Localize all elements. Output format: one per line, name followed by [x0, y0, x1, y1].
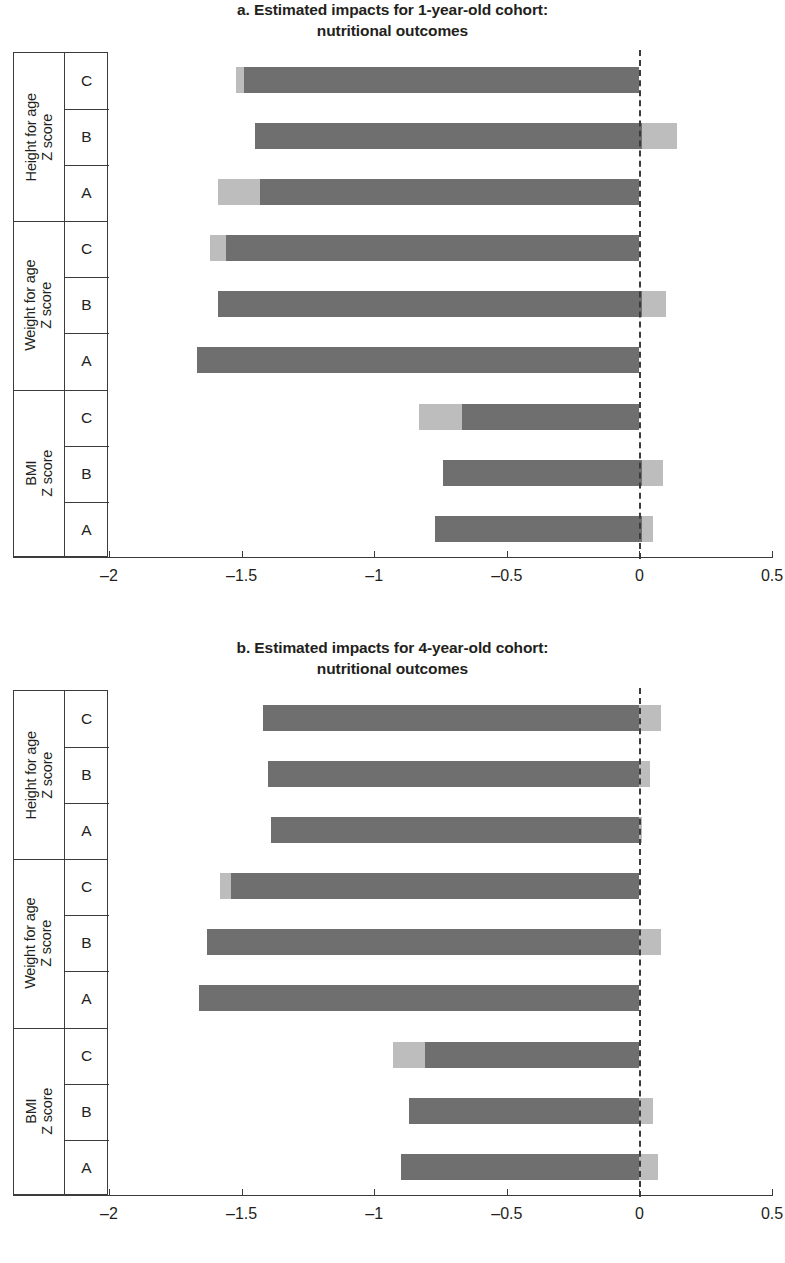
bar-segment-dark	[425, 1042, 640, 1068]
bar-segment-dark	[218, 291, 642, 317]
bar-segment-dark	[271, 817, 640, 843]
group-label-line2: Z score	[39, 260, 55, 351]
bar-c	[419, 404, 639, 430]
bar-segment-light-right	[642, 460, 663, 486]
bar-row	[108, 108, 785, 164]
bar-segment-light-left	[210, 235, 226, 261]
zero-reference-line	[639, 50, 641, 559]
bar-a	[197, 347, 640, 373]
bar-segment-light-right	[642, 516, 653, 542]
bar-segment-dark	[197, 347, 640, 373]
bar-segment-light-right	[639, 1154, 658, 1180]
x-axis-tick	[639, 1189, 640, 1196]
group-label-line2: Z score	[39, 450, 55, 497]
bar-segment-light-left	[236, 67, 244, 93]
x-axis-tick-label: 0	[635, 1205, 644, 1223]
panel-a-title-line2: nutritional outcomes	[90, 21, 695, 42]
bar-segment-light-left	[218, 179, 260, 205]
x-axis-b: –2–1.5–1–0.500.5	[13, 1195, 772, 1196]
bar-a	[271, 817, 642, 843]
sub-category-label-b: B	[64, 747, 109, 803]
bar-segment-dark	[226, 235, 640, 261]
bar-segment-dark	[263, 705, 640, 731]
x-axis-tick-label: –1.5	[226, 1205, 257, 1223]
bars-container-b	[108, 690, 785, 1195]
bar-segment-dark	[260, 179, 639, 205]
sub-category-label-b: B	[64, 446, 109, 502]
group-label-line1: Height for age	[23, 93, 39, 181]
group-label-weight-for-age: Weight for ageZ score	[14, 859, 64, 1027]
group-label-line1: BMI	[23, 450, 39, 497]
bar-b	[268, 761, 650, 787]
bar-c	[393, 1042, 640, 1068]
bar-segment-dark	[268, 761, 639, 787]
bar-segment-dark	[244, 67, 639, 93]
sub-category-label-a: A	[64, 333, 109, 389]
x-axis-tick-label: –1	[365, 567, 383, 585]
plot-area-a: Height for ageZ scoreCBAWeight for ageZ …	[0, 52, 785, 612]
x-axis-tick	[109, 1189, 110, 1196]
sub-category-label-c: C	[64, 691, 109, 747]
bar-segment-light-right	[642, 291, 666, 317]
sub-category-label-c: C	[64, 1028, 109, 1084]
group-label-bmi: BMIZ score	[14, 1028, 64, 1196]
bars-container-a	[108, 52, 785, 557]
x-axis-tick	[109, 551, 110, 558]
x-axis-tick-label: 0.5	[761, 567, 783, 585]
bar-row	[108, 970, 785, 1026]
group-label-line1: BMI	[23, 1088, 39, 1135]
sub-category-label-b: B	[64, 277, 109, 333]
category-axis-a: Height for ageZ scoreCBAWeight for ageZ …	[13, 52, 108, 557]
group-label-height-for-age: Height for ageZ score	[14, 691, 64, 859]
bar-row	[108, 389, 785, 445]
bar-b	[409, 1098, 653, 1124]
bar-segment-dark	[255, 123, 642, 149]
group-label-line2: Z score	[39, 898, 55, 989]
sub-category-label-b: B	[64, 915, 109, 971]
sub-category-label-c: C	[64, 390, 109, 446]
bar-a	[199, 985, 639, 1011]
sub-category-label-b: B	[64, 1084, 109, 1140]
bar-row	[108, 690, 785, 746]
bar-segment-dark	[207, 929, 639, 955]
bar-row	[108, 914, 785, 970]
x-axis-tick-label: –2	[100, 1205, 118, 1223]
bar-segment-light-left	[419, 404, 461, 430]
group-label-line1: Weight for age	[23, 898, 39, 989]
bar-segment-light-right	[642, 123, 676, 149]
bar-row	[108, 445, 785, 501]
x-axis-tick	[772, 1189, 773, 1196]
bar-b	[443, 460, 663, 486]
bar-b	[207, 929, 660, 955]
bar-segment-dark	[401, 1154, 640, 1180]
bar-row	[108, 858, 785, 914]
bar-segment-dark	[199, 985, 639, 1011]
bar-segment-light-right	[639, 929, 660, 955]
bar-a	[435, 516, 652, 542]
x-axis-tick-label: –1	[365, 1205, 383, 1223]
x-axis-a: –2–1.5–1–0.500.5	[13, 557, 772, 558]
bar-c	[263, 705, 661, 731]
bar-row	[108, 52, 785, 108]
group-label-line2: Z score	[39, 93, 55, 181]
sub-category-label-a: A	[64, 803, 109, 859]
x-axis-tick-label: 0.5	[761, 1205, 783, 1223]
x-axis-tick	[374, 1189, 375, 1196]
x-axis-tick-label: –0.5	[491, 567, 522, 585]
sub-category-label-b: B	[64, 109, 109, 165]
bar-row	[108, 746, 785, 802]
bar-a	[401, 1154, 658, 1180]
sub-category-label-c: C	[64, 859, 109, 915]
bar-row	[108, 1083, 785, 1139]
x-axis-tick	[374, 551, 375, 558]
bar-segment-light-right	[639, 705, 660, 731]
panel-a-title-line1: a. Estimated impacts for 1-year-old coho…	[237, 1, 548, 18]
bar-a	[218, 179, 640, 205]
sub-category-label-a: A	[64, 971, 109, 1027]
x-axis-tick-label: 0	[635, 567, 644, 585]
x-axis-tick	[507, 1189, 508, 1196]
x-axis-tick-label: –1.5	[226, 567, 257, 585]
group-label-line1: Weight for age	[23, 260, 39, 351]
panel-b-title: b. Estimated impacts for 4-year-old coho…	[0, 638, 785, 680]
panel-4-year-old-cohort: b. Estimated impacts for 4-year-old coho…	[0, 638, 785, 1263]
